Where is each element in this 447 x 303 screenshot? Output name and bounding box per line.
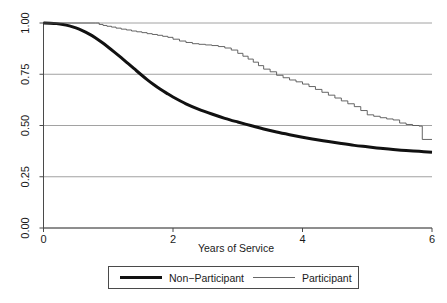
x-axis-title: Years of Service [198, 242, 274, 254]
y-tick-label-1: 0.25 [19, 166, 31, 187]
x-tick-label-1: 2 [170, 233, 176, 245]
chart-background [0, 0, 447, 303]
legend-label-non-participant: Non−Participant [169, 272, 244, 284]
y-tick-label-2: 0.50 [19, 115, 31, 136]
x-tick-label-0: 0 [40, 233, 46, 245]
x-tick-label-3: 6 [429, 233, 435, 245]
chart-legend: Non−Participant Participant [109, 267, 359, 289]
y-tick-label-4: 1.00 [19, 12, 31, 33]
y-tick-label-3: 0.75 [19, 64, 31, 85]
survival-chart-figure: 0.000.250.500.751.00 0246 Years of Servi… [0, 0, 447, 303]
legend-label-participant: Participant [302, 272, 352, 284]
x-tick-label-2: 4 [299, 233, 305, 245]
y-tick-label-0: 0.00 [19, 217, 31, 238]
chart-canvas: 0.000.250.500.751.00 0246 Years of Servi… [0, 0, 447, 303]
